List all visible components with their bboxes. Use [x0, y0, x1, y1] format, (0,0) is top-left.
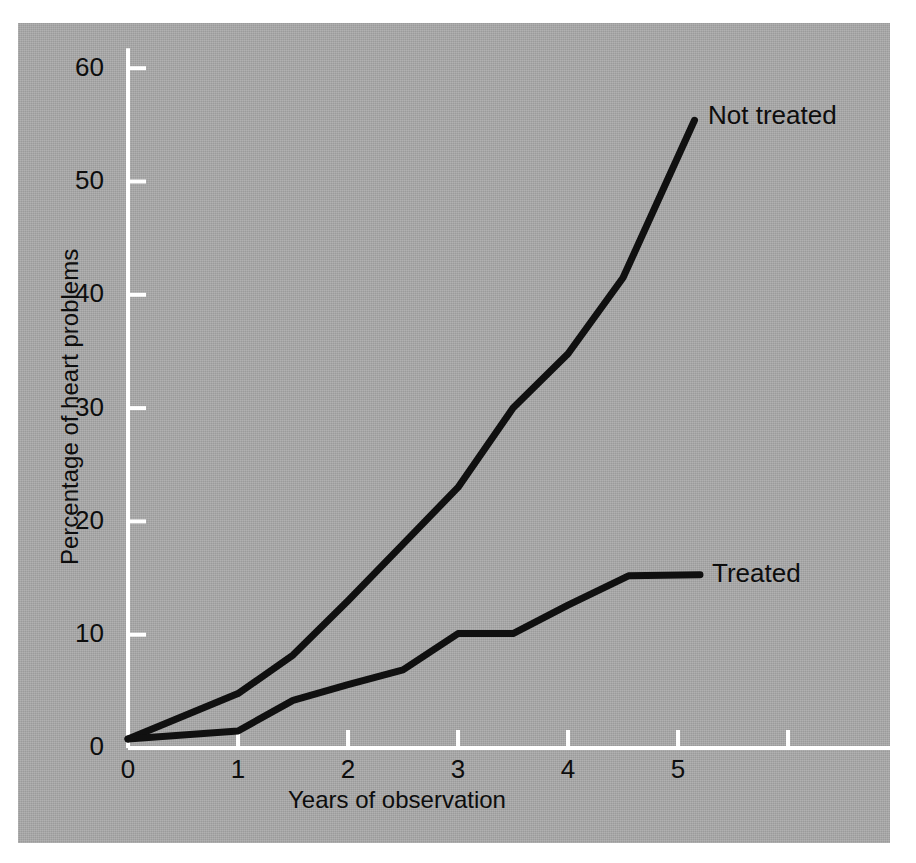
xtick-label-0: 0: [108, 754, 148, 785]
ytick-label-10: 10: [44, 618, 104, 649]
xtick-label-5: 5: [658, 754, 698, 785]
ytick-label-60: 60: [44, 52, 104, 83]
figure-canvas: 60 50 40 30 20 10 0 0 1 2 3 4 5 Percenta…: [0, 0, 916, 863]
xtick-label-3: 3: [438, 754, 478, 785]
xtick-label-2: 2: [328, 754, 368, 785]
y-axis-title: Percentage of heart problems: [56, 249, 84, 565]
ytick-label-50: 50: [44, 165, 104, 196]
series-label-not-treated: Not treated: [708, 100, 837, 131]
series-layer: [128, 120, 700, 739]
ytick-label-0: 0: [44, 731, 104, 762]
series-line-not-treated: [128, 120, 695, 739]
axes-layer: [128, 48, 890, 748]
series-line-treated: [128, 575, 700, 739]
series-label-treated: Treated: [712, 558, 801, 589]
xtick-label-1: 1: [218, 754, 258, 785]
x-axis-title: Years of observation: [288, 786, 506, 814]
xtick-label-4: 4: [548, 754, 588, 785]
